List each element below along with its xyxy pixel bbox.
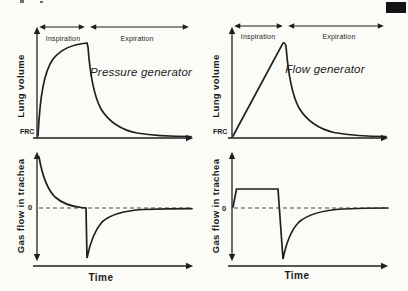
gas-flow-label-left: Gas flow in trachea	[15, 159, 26, 254]
expiration-label-right: Expiration	[322, 33, 355, 40]
scan-corner-artifact	[386, 2, 406, 13]
inspiration-label-left: Inspiration	[46, 35, 81, 42]
figure-canvas	[0, 0, 408, 291]
time-label-left: Time	[88, 272, 113, 283]
expiration-label-left: Expiration	[120, 35, 153, 42]
time-label-right: Time	[284, 270, 309, 281]
ink-speck	[20, 0, 24, 3]
lung-volume-label-left: Lung volume	[15, 54, 26, 118]
flow-generator-annotation: Flow generator	[285, 63, 365, 75]
ventilator-waveforms-figure: Inspiration Expiration Lung volume FRC P…	[0, 0, 408, 291]
zero-label-right: 0	[222, 204, 226, 213]
pressure-generator-annotation: Pressure generator	[90, 66, 192, 78]
volume-curve-flow-generator	[233, 43, 386, 137]
lung-volume-label-right: Lung volume	[210, 54, 221, 118]
ink-speck	[40, 1, 43, 3]
inspiration-label-right: Inspiration	[241, 33, 276, 40]
zero-label-left: 0	[28, 203, 32, 212]
frc-label-left: FRC	[20, 128, 34, 135]
frc-label-right: FRC	[213, 128, 227, 135]
gas-flow-label-right: Gas flow in trachea	[210, 159, 221, 254]
volume-curve-pressure-generator	[38, 43, 191, 137]
gasflow-curve-flow-generator	[233, 189, 388, 259]
